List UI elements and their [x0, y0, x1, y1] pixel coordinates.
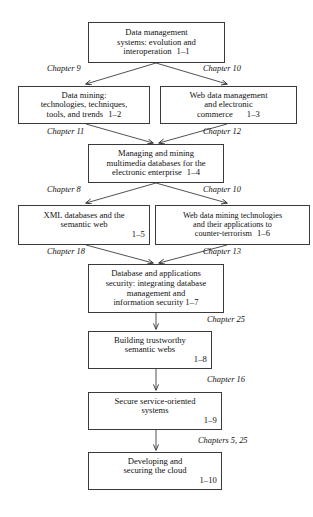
- edge-label-chapters-5-25: Chapters 5, 25: [198, 436, 248, 445]
- flowchart-node-1-2[interactable]: Data mining: technologies, techniques, t…: [18, 86, 150, 124]
- edge-label-chapter-25: Chapter 25: [207, 315, 245, 324]
- edge-label-chapter-10-mid: Chapter 10: [203, 185, 241, 194]
- node-line: information security1–7: [91, 298, 221, 308]
- node-line: Web data mining technologies: [158, 211, 307, 220]
- node-line: electronic enterprise1–4: [91, 168, 221, 178]
- edge-label-chapter-16: Chapter 16: [207, 375, 245, 384]
- flowchart-node-1-8[interactable]: Building trustworthy semantic webs 1–8: [88, 331, 212, 369]
- flowchart-node-1-1[interactable]: Data management systems: evolution and i…: [88, 22, 225, 63]
- edge-label-chapter-10-top: Chapter 10: [203, 64, 241, 73]
- node-line: commerce1–3: [163, 110, 294, 120]
- node-line: semantic webs: [91, 345, 209, 355]
- edge-label-chapter-18: Chapter 18: [47, 247, 85, 256]
- flowchart-node-1-3[interactable]: Web data management and electronic comme…: [160, 86, 297, 124]
- flowchart-node-1-5[interactable]: XML databases and the semantic web 1–5: [18, 205, 150, 245]
- node-line: systems: [91, 406, 219, 416]
- flowchart-node-1-7[interactable]: Database and applications security: inte…: [88, 264, 224, 313]
- edge-label-chapter-12: Chapter 12: [203, 127, 241, 136]
- node-number: 1–3: [233, 109, 260, 119]
- flowchart-node-1-4[interactable]: Managing and mining multimedia databases…: [88, 144, 224, 183]
- flowchart-node-1-9[interactable]: Secure service-oriented systems 1–9: [88, 392, 222, 430]
- node-number: 1–5: [21, 230, 147, 240]
- node-line: interoperation1–1: [91, 47, 222, 57]
- edge-label-chapter-8: Chapter 8: [47, 185, 81, 194]
- node-line: semantic web: [21, 220, 147, 230]
- node-number: 1–8: [91, 355, 209, 365]
- node-number: 1–4: [182, 167, 200, 177]
- node-line: tools, and trends1–2: [21, 110, 147, 120]
- edge-label-chapter-9: Chapter 9: [47, 64, 81, 73]
- node-line: counter-terrorism1–6: [158, 229, 307, 239]
- node-number: 1–10: [91, 476, 219, 486]
- node-number: 1–6: [252, 228, 270, 238]
- node-number: 1–2: [103, 109, 121, 119]
- node-line: and their applications to: [158, 220, 307, 229]
- flowchart-node-1-6[interactable]: Web data mining technologies and their a…: [155, 205, 310, 245]
- flowchart-diagram: Data management systems: evolution and i…: [0, 0, 313, 517]
- flowchart-node-1-10[interactable]: Developing and securing the cloud 1–10: [88, 452, 222, 490]
- node-number: 1–9: [91, 416, 219, 426]
- flowchart-edges: [0, 0, 313, 517]
- node-number: 1–1: [172, 46, 190, 56]
- node-number: 1–7: [183, 297, 198, 307]
- edge-label-chapter-13: Chapter 13: [203, 247, 241, 256]
- edge-label-chapter-11: Chapter 11: [47, 127, 84, 136]
